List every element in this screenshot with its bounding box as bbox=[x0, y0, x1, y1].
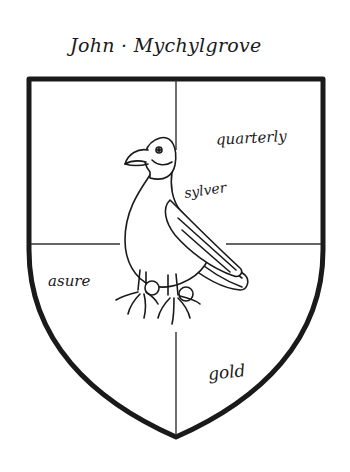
heraldic-shield-illustration: John · Mychylgrove quarterly sylver asur… bbox=[0, 0, 350, 472]
gold-tincture-label: gold bbox=[207, 362, 246, 383]
azure-tincture-label: asure bbox=[48, 274, 90, 289]
shield-drawing bbox=[0, 0, 350, 472]
quarterly-label: quarterly bbox=[216, 129, 287, 148]
owner-name-inscription: John · Mychylgrove bbox=[70, 36, 262, 55]
